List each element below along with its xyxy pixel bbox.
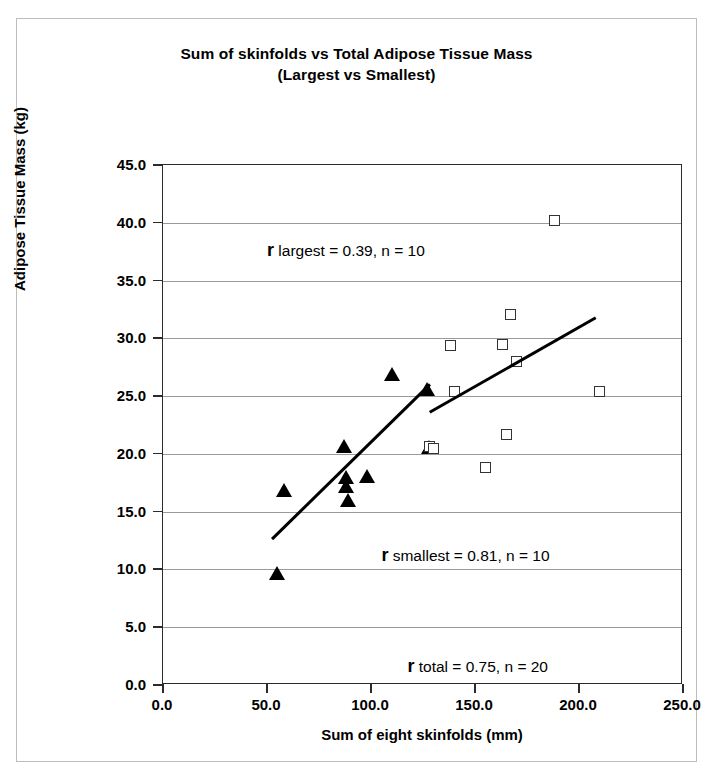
x-axis-tick-label: 100.0 (335, 696, 405, 713)
y-axis-tick-mark (153, 280, 162, 282)
data-point-triangle (338, 479, 354, 493)
data-point-square (594, 386, 605, 397)
data-point-square (445, 340, 456, 351)
data-point-triangle (336, 439, 352, 453)
annotation-text: total = 0.75, n = 20 (414, 658, 548, 675)
gridline (163, 569, 681, 570)
y-axis-tick-mark (153, 453, 162, 455)
data-point-square (505, 309, 516, 320)
y-axis-tick-mark (153, 395, 162, 397)
y-axis-tick-label: 45.0 (90, 156, 146, 173)
gridline (163, 223, 681, 224)
annotation-r-largest: r largest = 0.39, n = 10 (267, 240, 425, 261)
x-axis-tick-label: 200.0 (543, 696, 613, 713)
data-point-square (501, 429, 512, 440)
y-axis-tick-mark (153, 222, 162, 224)
trendline-smallest (271, 383, 431, 540)
annotation-text: smallest = 0.81, n = 10 (388, 547, 549, 564)
x-axis-tick-mark (370, 684, 372, 693)
x-axis-tick-mark (162, 684, 164, 693)
gridline (163, 338, 681, 339)
x-axis-tick-mark (682, 684, 684, 693)
data-point-square (428, 443, 439, 454)
chart-title-line-2: (Largest vs Smallest) (17, 64, 696, 85)
data-point-triangle (276, 483, 292, 497)
plot-area: r largest = 0.39, n = 10r smallest = 0.8… (162, 164, 682, 684)
y-axis-tick-mark (153, 164, 162, 166)
y-axis-tick-label: 0.0 (90, 676, 146, 693)
y-axis-tick-mark (153, 568, 162, 570)
x-axis-title: Sum of eight skinfolds (mm) (162, 726, 682, 743)
y-axis-tick-label: 20.0 (90, 444, 146, 461)
x-axis-tick-mark (474, 684, 476, 693)
y-axis-tick-mark (153, 337, 162, 339)
annotation-symbol: r (267, 240, 274, 260)
y-axis-tick-label: 5.0 (90, 618, 146, 635)
y-axis-tick-label: 25.0 (90, 387, 146, 404)
y-axis-tick-mark (153, 511, 162, 513)
gridline (163, 281, 681, 282)
gridline (163, 627, 681, 628)
trendline-largest (429, 316, 597, 413)
gridline (163, 512, 681, 513)
y-axis-tick-label: 10.0 (90, 560, 146, 577)
x-axis-tick-mark (266, 684, 268, 693)
data-point-triangle (340, 493, 356, 507)
data-point-triangle (384, 367, 400, 381)
annotation-text: largest = 0.39, n = 10 (274, 242, 425, 259)
x-axis-tick-label: 250.0 (647, 696, 715, 713)
annotation-r-total: r total = 0.75, n = 20 (407, 656, 548, 677)
x-axis-tick-label: 50.0 (231, 696, 301, 713)
y-axis-tick-label: 40.0 (90, 213, 146, 230)
y-axis-title: Adipose Tissue Mass (kg) (11, 107, 28, 291)
y-axis-tick-label: 30.0 (90, 329, 146, 346)
y-axis-tick-label: 15.0 (90, 502, 146, 519)
gridline (163, 454, 681, 455)
y-axis-tick-mark (153, 684, 162, 686)
data-point-square (480, 462, 491, 473)
chart-title: Sum of skinfolds vs Total Adipose Tissue… (17, 43, 696, 85)
data-point-square (497, 339, 508, 350)
x-axis-tick-label: 150.0 (439, 696, 509, 713)
annotation-r-smallest: r smallest = 0.81, n = 10 (381, 545, 549, 566)
data-point-triangle (359, 469, 375, 483)
y-axis-tick-label: 35.0 (90, 271, 146, 288)
figure-frame: Sum of skinfolds vs Total Adipose Tissue… (16, 18, 697, 762)
x-axis-tick-label: 0.0 (127, 696, 197, 713)
x-axis-tick-mark (578, 684, 580, 693)
chart-title-line-1: Sum of skinfolds vs Total Adipose Tissue… (180, 45, 532, 62)
y-axis-tick-mark (153, 626, 162, 628)
data-point-triangle (269, 566, 285, 580)
data-point-square (549, 215, 560, 226)
